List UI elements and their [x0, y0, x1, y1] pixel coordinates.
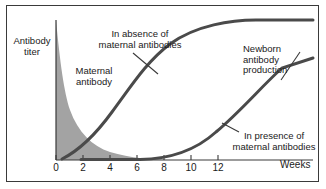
y-axis-label-line2: titer	[24, 46, 40, 57]
x-tick-label-4: 4	[100, 162, 120, 173]
annotation-absence-line1: In absence of	[111, 28, 168, 39]
annotation-maternal-line2: antibody	[76, 76, 112, 87]
annotation-newborn-antibody-production: Newbornantibodyproduction	[243, 44, 315, 76]
x-tick-label-6: 6	[127, 162, 147, 173]
annotation-presence-maternal-antibodies: In presence ofmaternal antibodies	[226, 131, 322, 152]
annotation-newborn-line2: antibody	[243, 54, 279, 65]
y-axis-label-line1: Antibody	[14, 35, 51, 46]
annotation-absence-line2: maternal antibodies	[99, 39, 182, 50]
annotation-maternal-line1: Maternal	[76, 65, 113, 76]
x-tick-label-2: 2	[73, 162, 93, 173]
annotation-presence-line2: maternal antibodies	[233, 141, 316, 152]
x-tick-label-8: 8	[154, 162, 174, 173]
y-axis-label: Antibodytiter	[9, 36, 55, 57]
annotation-presence-line1: In presence of	[244, 130, 304, 141]
annotation-absence-maternal-antibodies: In absence ofmaternal antibodies	[92, 29, 188, 50]
x-axis-label: Weeks	[280, 159, 310, 170]
x-tick-label-12: 12	[208, 162, 228, 173]
annotation-newborn-line1: Newborn	[243, 43, 281, 54]
x-tick-label-0: 0	[46, 162, 66, 173]
antibody-titer-figure: Antibodytiter Maternalantibody In absenc…	[0, 0, 326, 189]
x-tick-label-10: 10	[181, 162, 201, 173]
annotation-maternal-antibody: Maternalantibody	[66, 66, 122, 87]
annotation-newborn-line3: production	[243, 64, 287, 75]
